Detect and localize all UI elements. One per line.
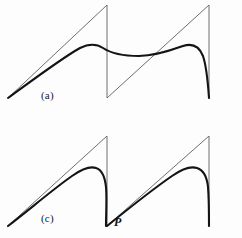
panel-label-c: (c)	[41, 212, 54, 224]
panel-a	[0, 0, 242, 119]
point-label-p: P	[114, 215, 121, 230]
panel-label-a: (a)	[41, 89, 54, 101]
smooth-curve-c	[8, 167, 209, 226]
figure-container: (a) (c) P	[0, 0, 242, 238]
smooth-curve-a	[8, 45, 209, 98]
sawtooth-line-c	[8, 136, 209, 226]
panel-a-plot	[0, 0, 242, 119]
